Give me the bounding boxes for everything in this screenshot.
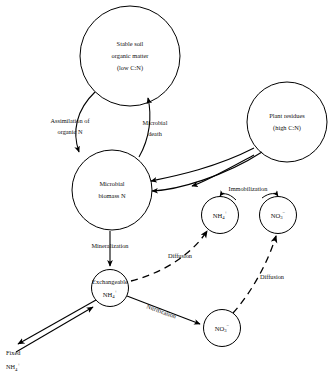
soil-nitrate-formula: NO (215, 325, 225, 332)
soil-nitrate-sup: − (227, 323, 230, 328)
solution-ammonium-label: NH4+ (213, 210, 228, 220)
solution-nitrate-label: NO3− (271, 210, 286, 220)
microbial-death-label-line1: Microbial (143, 119, 168, 126)
plant-residues-line2: (high C:N) (273, 124, 301, 132)
solution-nitrate-sub: 3 (280, 215, 283, 220)
stable-organic-matter-line1: Stable soil (117, 40, 144, 47)
microbial-biomass-line2: biomass N (98, 192, 126, 199)
solution-ammonium-formula: NH (213, 212, 223, 219)
edge-immobilization-solution-arrow (192, 155, 254, 186)
nitrification-label: Nitrification (146, 302, 178, 320)
edge-immobilization-to-nitrate (262, 194, 278, 198)
fixed-ammonium-formula: NH (6, 363, 16, 370)
fixed-ammonium-label: NH4+ (6, 362, 20, 372)
plant-residues-line1: Plant residues (269, 112, 305, 119)
mineralization-label: Mineralization (91, 242, 129, 249)
node-plant-residues (247, 82, 327, 162)
exchangeable-ammonium-label: NH4+ (103, 289, 118, 299)
diagram-canvas: Stable soil organic matter (low C:N) Pla… (0, 0, 330, 377)
soil-nitrate-sub: 3 (224, 328, 227, 333)
exchangeable-ammonium-sub: 4 (112, 294, 115, 299)
diffusion-nitrate-label: Diffusion (260, 273, 285, 280)
solution-ammonium-sup: + (225, 210, 228, 215)
microbial-death-label-line2: death (148, 130, 162, 137)
immobilization-label: Immobilization (229, 185, 269, 192)
stable-organic-matter-line2: organic matter (112, 52, 150, 59)
fixed-ammonium-line1: Fixed (6, 349, 21, 356)
assimilation-label-line2: organic N (58, 128, 83, 135)
nitrogen-cycle-diagram: Stable soil organic matter (low C:N) Pla… (0, 0, 330, 377)
assimilation-label-line1: Assimilation of (50, 117, 90, 124)
exchangeable-ammonium-sup: + (115, 289, 118, 294)
edge-release-arrow (16, 307, 93, 352)
node-microbial-biomass (72, 150, 152, 230)
microbial-biomass-line1: Microbial (99, 180, 124, 187)
edge-fixation-arrow (18, 300, 96, 344)
solution-ammonium-sub: 4 (222, 215, 225, 220)
edge-immobilization-residues-arrow (151, 148, 254, 181)
fixed-ammonium-sup: + (17, 362, 20, 367)
edge-microbial-death-arrow (139, 98, 150, 157)
exchangeable-ammonium-caption: Exchangeable (92, 278, 128, 285)
node-exchangeable-ammonium (92, 270, 129, 307)
fixed-ammonium-sub: 4 (15, 367, 18, 372)
solution-nitrate-formula: NO (271, 212, 281, 219)
diffusion-ammonium-label: Diffusion (168, 252, 193, 259)
soil-nitrate-label: NO3− (215, 323, 230, 333)
stable-organic-matter-line3: (low C:N) (117, 64, 143, 72)
solution-nitrate-sup: − (283, 210, 286, 215)
exchangeable-ammonium-formula: NH (103, 291, 113, 298)
